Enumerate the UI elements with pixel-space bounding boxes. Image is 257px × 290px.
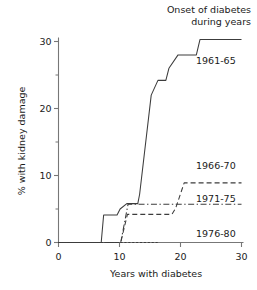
x-tick-label: 20 <box>168 251 194 263</box>
chart-axes <box>54 38 244 248</box>
y-axis-label: % with kidney damage <box>16 76 28 206</box>
legend-title-line-1: Onset of diabetes <box>167 4 251 16</box>
chart-series <box>59 39 242 242</box>
series-line-1961-65 <box>59 39 242 242</box>
x-tick-label: 30 <box>229 251 255 263</box>
x-axis-label: Years with diabetes <box>110 268 202 280</box>
y-tick-label: 20 <box>26 103 52 115</box>
y-tick-label: 10 <box>26 170 52 182</box>
chart-figure: Onset of diabetes during years 1961-65 1… <box>0 0 257 290</box>
series-label-1966-70: 1966-70 <box>196 160 236 172</box>
series-label-1971-75: 1971-75 <box>196 193 236 205</box>
legend-title: Onset of diabetes during years <box>167 4 251 28</box>
series-label-1961-65: 1961-65 <box>196 55 236 67</box>
series-label-1976-80: 1976-80 <box>196 228 236 240</box>
legend-title-line-2: during years <box>167 16 251 28</box>
x-tick-label: 0 <box>46 251 72 263</box>
y-tick-label: 30 <box>26 36 52 48</box>
y-tick-label: 0 <box>26 237 52 249</box>
x-tick-label: 10 <box>107 251 133 263</box>
